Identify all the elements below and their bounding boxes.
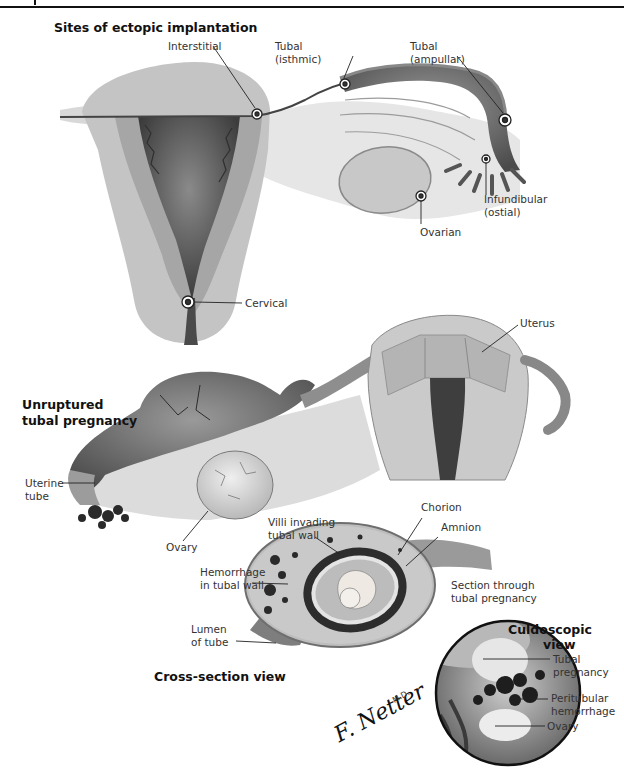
label-ovary: Ovary: [166, 541, 197, 554]
unruptured-tubal-pregnancy-art: [62, 315, 566, 541]
label-tubal-isthmic-line1: Tubal: [275, 40, 303, 53]
label-ovarian: Ovarian: [420, 226, 461, 239]
uterus-schematic: [60, 46, 524, 345]
illustration-canvas: [0, 0, 624, 774]
label-interstitial: Interstitial: [168, 40, 222, 53]
label-chorion: Chorion: [421, 501, 462, 514]
section-title-culdoscopic-line1: Culdoscopic: [508, 622, 592, 638]
label-section-line1: Section through: [451, 579, 535, 592]
label-tubal-ampullar-line2: (ampullar): [410, 53, 465, 66]
label-infundibular-line1: Infundibular: [484, 193, 547, 206]
label-villi-line2: tubal wall: [268, 529, 319, 542]
label-villi-line1: Villi invading: [268, 516, 335, 529]
label-hemorrhage-line2: in tubal wall: [200, 579, 264, 592]
label-tubal-ampullar-line1: Tubal: [410, 40, 438, 53]
label-tubal-isthmic-line2: (isthmic): [275, 53, 321, 66]
label-uterine-tube-line2: tube: [25, 490, 49, 503]
label-section-line2: tubal pregnancy: [451, 592, 537, 605]
section-title-cross-section: Cross-section view: [154, 669, 286, 685]
section-title-ectopic-sites: Sites of ectopic implantation: [54, 20, 257, 36]
label-lumen-line1: Lumen: [191, 623, 227, 636]
section-title-unruptured-line2: tubal pregnancy: [22, 413, 137, 429]
label-peritubular-line1: Peritubular: [551, 692, 608, 705]
label-tubal-pregnancy-line2: pregnancy: [553, 666, 609, 679]
label-tubal-pregnancy-line1: Tubal: [553, 653, 581, 666]
label-hemorrhage-line1: Hemorrhage: [200, 566, 266, 579]
label-cervical: Cervical: [245, 297, 287, 310]
section-title-culdoscopic-line2: view: [543, 637, 575, 653]
label-uterine-tube-line1: Uterine: [25, 477, 64, 490]
label-culdoscopic-ovary: Ovary: [547, 720, 578, 733]
label-amnion: Amnion: [441, 521, 481, 534]
label-lumen-line2: of tube: [191, 636, 228, 649]
label-peritubular-line2: hemorrhage: [551, 705, 615, 718]
label-infundibular-line2: (ostial): [484, 206, 520, 219]
section-title-unruptured-line1: Unruptured: [22, 397, 104, 413]
label-uterus: Uterus: [520, 317, 555, 330]
